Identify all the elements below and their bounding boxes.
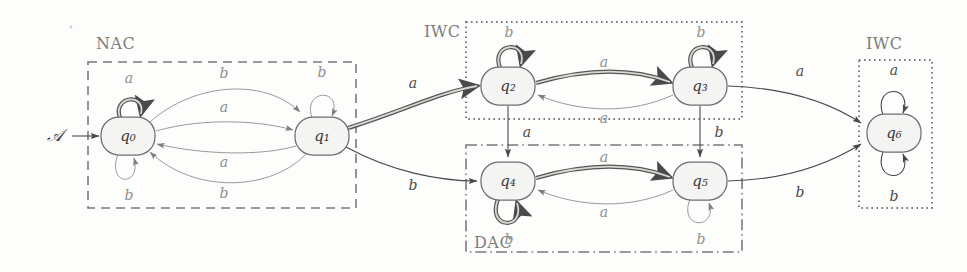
region-label-iwc-right: IWC xyxy=(866,34,903,53)
edge-q3-self-b-inner xyxy=(690,47,714,68)
edge-label-q0-self-a: a xyxy=(125,70,133,86)
region-label-nac: NAC xyxy=(96,34,135,53)
edge-q5-self-b xyxy=(688,199,711,223)
edge-label-q2-self-b: b xyxy=(505,24,514,40)
state-node-q6[interactable]: q₆ xyxy=(867,114,921,152)
edge-q4-self-b-inner xyxy=(496,199,519,223)
edge-label-q3-q6-a: a xyxy=(796,63,804,79)
edge-label-q2-q4-a: a xyxy=(523,124,531,140)
edge-q0-self-a-inner xyxy=(119,99,142,118)
state-node-q4[interactable]: q₄ xyxy=(481,162,535,200)
edge-q5-q6-b xyxy=(728,144,861,181)
edge-label-q1-q0-b: b xyxy=(220,185,229,201)
edge-label-q3-q2-a: a xyxy=(600,110,608,126)
edge-label-q1-q4-b: b xyxy=(409,177,418,193)
state-node-q5[interactable]: q₅ xyxy=(673,162,727,200)
edge-label-q1-self-b: b xyxy=(318,64,327,80)
edge-label-q5-q4-a: a xyxy=(600,204,608,220)
edge-label-q0-q1-a: a xyxy=(220,99,228,115)
edge-q0-q1-a xyxy=(156,122,293,131)
edge-label-q4-self-b: b xyxy=(505,231,514,247)
edge-label-q5-self-b: b xyxy=(697,231,706,247)
edge-label-q3-q5-b: b xyxy=(715,124,724,140)
state-node-q3[interactable]: q₃ xyxy=(673,67,727,105)
diagram-svg: NAC IWC DAC IWC 𝒜 xyxy=(0,0,967,272)
paper-speck xyxy=(70,26,73,29)
edge-q1-q4-b xyxy=(346,147,477,181)
edge-q1-q0-a xyxy=(157,144,296,153)
edge-label-q0-self-b: b xyxy=(125,187,134,203)
edge-label-q2-q3-a: a xyxy=(600,54,608,70)
start-automaton-label: 𝒜 xyxy=(47,125,68,145)
edge-q6-self-b xyxy=(881,152,905,176)
edge-q3-q2-a xyxy=(538,95,673,109)
state-label-q0: q₀ xyxy=(120,127,136,145)
edge-label-q0-q1-b: b xyxy=(220,65,229,81)
edge-q6-self-a xyxy=(881,91,905,115)
edge-label-q5-q6-b: b xyxy=(796,184,805,200)
edge-label-q6-self-b: b xyxy=(890,188,899,204)
state-label-q5: q₅ xyxy=(692,172,708,190)
edge-q0-self-b xyxy=(116,154,136,179)
state-label-q2: q₂ xyxy=(500,77,516,95)
edge-q2-self-b-inner xyxy=(498,47,522,68)
state-label-q3: q₃ xyxy=(692,77,708,95)
edge-label-q6-self-a: a xyxy=(890,62,898,78)
state-label-q1: q₁ xyxy=(314,127,330,145)
state-node-q0[interactable]: q₀ xyxy=(101,117,155,155)
edge-label-q4-q5-a: a xyxy=(600,149,608,165)
region-label-iwc-top: IWC xyxy=(424,22,461,41)
state-label-q6: q₆ xyxy=(886,124,902,142)
edge-q1-self-b xyxy=(310,95,334,118)
state-node-q2[interactable]: q₂ xyxy=(481,67,535,105)
edge-q1-q0-b xyxy=(150,152,308,183)
edge-q5-q4-a xyxy=(538,190,673,204)
edge-label-q1-q2-a: a xyxy=(409,75,417,91)
automaton-diagram-canvas: NAC IWC DAC IWC 𝒜 xyxy=(0,0,967,272)
state-label-q4: q₄ xyxy=(500,172,516,190)
edge-q3-q6-a xyxy=(728,86,861,123)
edge-label-q1-q0-a: a xyxy=(220,154,228,170)
edge-label-q3-self-b: b xyxy=(697,24,706,40)
state-node-q1[interactable]: q₁ xyxy=(295,117,349,155)
